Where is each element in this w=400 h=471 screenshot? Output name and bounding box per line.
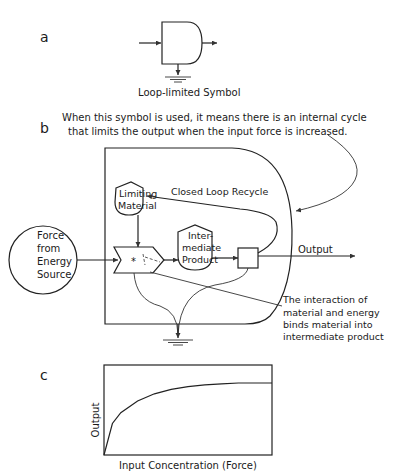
note-pointer-arrow	[296, 135, 357, 211]
panel-b-label: b	[40, 120, 49, 136]
interaction-note-line1: The interaction of	[282, 294, 368, 305]
heat-sink-icon	[165, 77, 191, 82]
panel-c: c Output Input Concentration (Force)	[40, 365, 272, 471]
source-line2: from	[37, 243, 60, 254]
panel-a-label: a	[40, 29, 49, 45]
interaction-note-line2: material and energy	[283, 307, 380, 318]
source-line3: Energy	[37, 256, 72, 267]
interaction-symbol-icon	[114, 247, 164, 273]
intermediate-line2: mediate	[182, 242, 221, 253]
process-box	[238, 248, 258, 268]
intermediate-line3: Product	[182, 254, 218, 265]
panel-b: b When this symbol is used, it means the…	[9, 112, 384, 345]
limiting-material-line2: Material	[118, 200, 157, 211]
chart-plot-area	[104, 365, 272, 455]
limiting-material-line1: Limiting	[119, 188, 157, 199]
interaction-dashed-line	[143, 254, 160, 265]
saturation-curve	[104, 383, 272, 455]
closed-loop-label: Closed Loop Recycle	[171, 186, 268, 197]
panel-a: a Loop-limited Symbol	[40, 22, 241, 98]
symbol-note-line1: When this symbol is used, it means there…	[62, 112, 367, 123]
source-line1: Force	[37, 230, 64, 241]
symbol-note-line2: that limits the output when the input fo…	[68, 126, 348, 137]
chart-xlabel: Input Concentration (Force)	[119, 460, 257, 471]
heat-flow-right	[178, 268, 248, 335]
chart-ylabel: Output	[90, 403, 101, 438]
output-label: Output	[298, 244, 333, 255]
interaction-note-line3: binds material into	[283, 319, 373, 330]
source-line4: Source	[37, 269, 71, 280]
symbol-caption: Loop-limited Symbol	[138, 87, 241, 98]
interaction-note-line4: intermediate product	[283, 331, 384, 342]
interaction-star: *	[131, 256, 136, 267]
panel-c-label: c	[40, 367, 48, 383]
heat-flow-left	[134, 273, 178, 335]
intermediate-line1: Inter-	[188, 230, 213, 241]
loop-limited-symbol-icon	[162, 22, 202, 64]
interaction-note-pointer	[150, 272, 282, 306]
diagram-canvas: a Loop-limited Symbol b When this symbol…	[0, 0, 400, 471]
heat-sink-icon-b	[163, 340, 193, 345]
